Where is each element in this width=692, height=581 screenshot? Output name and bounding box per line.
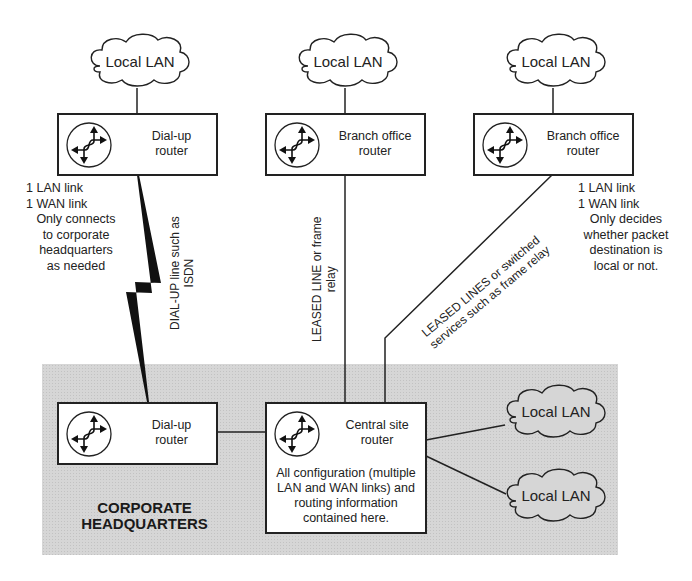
remote-dialup-note: 1 LAN link 1 WAN link Only connects to c…	[26, 181, 126, 274]
hq-label-line2: HEADQUARTERS	[72, 516, 217, 532]
router-icon	[273, 410, 321, 458]
router-name-line2: router	[331, 433, 423, 448]
cloud-icon: Local LAN	[294, 30, 402, 90]
router-icon	[65, 410, 113, 458]
branch-office-router-right: Branch office router	[473, 113, 634, 176]
note-line: 1 LAN link	[578, 181, 674, 197]
desc-line: LAN and WAN links) and	[267, 481, 425, 496]
router-name-line2: router	[129, 433, 214, 448]
leased-line-label: LEASED LINE or frame relay	[310, 217, 338, 342]
cloud-icon: Local LAN	[86, 30, 194, 90]
note-line: destination is	[578, 243, 674, 259]
lightning-bolt-icon	[126, 175, 161, 402]
cloud-label: Local LAN	[294, 53, 402, 70]
router-name-line1: Dial-up	[129, 129, 214, 144]
link-label-line: relay	[324, 217, 338, 342]
link-label-line: LEASED LINE or frame	[310, 217, 324, 342]
router-name-line1: Dial-up	[129, 418, 214, 433]
hq-label-line1: CORPORATE	[72, 500, 217, 516]
note-line: 1 LAN link	[26, 181, 126, 197]
router-icon	[481, 121, 529, 169]
note-line: Only connects	[26, 212, 126, 228]
router-name-line2: router	[129, 144, 214, 159]
branch-office-note: 1 LAN link 1 WAN link Only decides wheth…	[578, 181, 674, 274]
link-label-line: ISDN	[182, 216, 196, 330]
note-line: as needed	[26, 259, 126, 275]
desc-line: contained here.	[267, 511, 425, 526]
cloud-label: Local LAN	[502, 53, 610, 70]
central-router-description: All configuration (multiple LAN and WAN …	[267, 466, 425, 526]
router-name-line1: Branch office	[533, 129, 633, 144]
note-line: whether packet	[578, 228, 674, 244]
note-line: 1 WAN link	[578, 197, 674, 213]
note-line: headquarters	[26, 243, 126, 259]
cloud-icon: Local LAN	[502, 30, 610, 90]
branch-office-router-middle: Branch office router	[265, 113, 426, 176]
note-line: local or not.	[578, 259, 674, 275]
cloud-label: Local LAN	[502, 487, 610, 504]
central-site-router: Central site router All configuration (m…	[265, 402, 427, 534]
note-line: Only decides	[578, 212, 674, 228]
router-name-line1: Branch office	[325, 129, 425, 144]
router-name-line1: Central site	[331, 418, 423, 433]
desc-line: routing information	[267, 496, 425, 511]
dialup-link-label: DIAL-UP line such as ISDN	[168, 216, 196, 330]
router-icon	[65, 121, 113, 169]
remote-dialup-router: Dial-up router	[57, 113, 218, 176]
link-label-line: DIAL-UP line such as	[168, 216, 182, 330]
cloud-label: Local LAN	[502, 403, 610, 420]
note-line: 1 WAN link	[26, 197, 126, 213]
hq-dialup-router: Dial-up router	[57, 402, 218, 465]
desc-line: All configuration (multiple	[267, 466, 425, 481]
router-icon	[273, 121, 321, 169]
router-name-line2: router	[325, 144, 425, 159]
cloud-label: Local LAN	[86, 53, 194, 70]
cloud-icon: Local LAN	[502, 380, 610, 442]
router-name-line2: router	[533, 144, 633, 159]
cloud-icon: Local LAN	[502, 464, 610, 526]
corporate-headquarters-label: CORPORATE HEADQUARTERS	[72, 500, 217, 532]
note-line: to corporate	[26, 228, 126, 244]
